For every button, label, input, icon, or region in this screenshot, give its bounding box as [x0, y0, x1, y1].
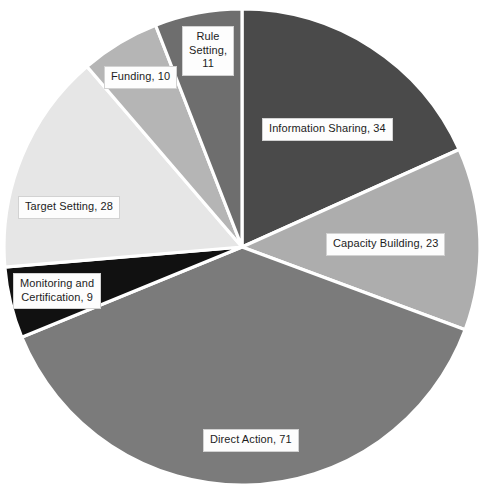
slice-label-line: 11 [189, 57, 227, 71]
slice-label-information-sharing: Information Sharing, 34 [262, 118, 393, 141]
slice-label-direct-action: Direct Action, 71 [203, 429, 299, 452]
slice-label-line: Direct Action, 71 [210, 433, 292, 447]
slice-label-monitoring-and-certification: Monitoring and Certification, 9 [13, 273, 101, 309]
slice-label-line: Information Sharing, 34 [269, 122, 386, 136]
slice-label-line: Funding, 10 [111, 70, 170, 84]
slice-label-line: Setting, [189, 44, 227, 58]
slice-label-capacity-building: Capacity Building, 23 [326, 233, 445, 256]
slice-label-funding: Funding, 10 [104, 66, 177, 89]
slice-label-line: Capacity Building, 23 [333, 237, 438, 251]
slice-label-line: Certification, 9 [20, 291, 94, 305]
pie-chart: Information Sharing, 34 Capacity Buildin… [0, 0, 486, 497]
slice-label-target-setting: Target Setting, 28 [18, 196, 120, 219]
slice-label-line: Target Setting, 28 [25, 200, 113, 214]
slice-label-line: Monitoring and [20, 277, 94, 291]
slice-label-line: Rule [189, 30, 227, 44]
slice-label-rule-setting: Rule Setting, 11 [182, 26, 234, 76]
